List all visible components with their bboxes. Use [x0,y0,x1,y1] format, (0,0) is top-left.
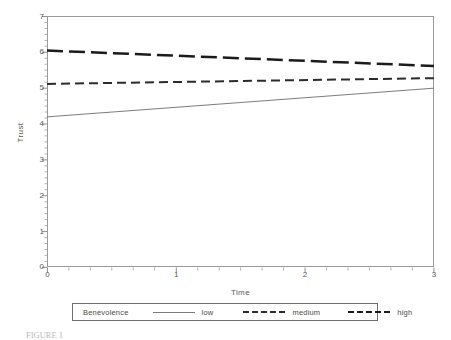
y-tick-label: 3 [28,156,44,164]
x-tick-label: 0 [38,271,58,279]
legend-entry-high[interactable]: high [348,307,412,317]
legend-swatch-high-icon [348,307,390,317]
legend-swatch-medium-icon [243,307,285,317]
y-axis-title: Trust [16,107,25,159]
figure-container: 7 6 5 4 3 2 1 0 0 1 2 3 Trust Time Benev… [0,0,451,340]
y-tick-label: 2 [28,192,44,200]
y-tick-label: 6 [28,48,44,56]
legend-label-high: high [397,308,412,317]
legend-label-medium: medium [292,308,320,317]
x-tick-label: 1 [166,271,186,279]
legend-entry-low[interactable]: low [153,307,214,317]
legend-label-low: low [202,308,214,317]
x-tick-label-group: 0 1 2 3 [0,271,451,285]
legend-swatch-low-icon [153,307,195,317]
x-tick-label: 3 [424,271,444,279]
y-tick-label: 5 [28,84,44,92]
y-tick-label: 1 [28,228,44,236]
legend-entry-medium[interactable]: medium [243,307,320,317]
y-tick-label: 4 [28,120,44,128]
x-tick-label: 2 [295,271,315,279]
figure-caption: FIGURE 1 [26,331,436,340]
legend-title: Benevolence [73,308,129,317]
x-axis-title: Time [0,288,451,297]
plot-area [47,16,434,267]
legend: Benevolence low medium high [72,303,378,321]
y-tick-label: 7 [28,13,44,21]
